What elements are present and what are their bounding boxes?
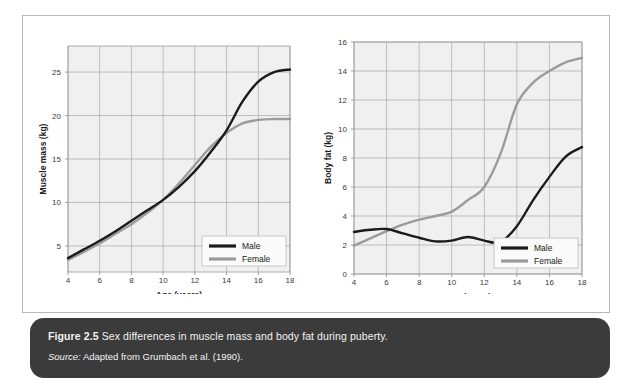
muscle-mass-ytick-label: 5 [57, 242, 62, 251]
caption-description: Sex differences in muscle mass and body … [102, 330, 388, 342]
muscle-mass-xtick-label: 14 [222, 276, 231, 285]
body-fat-x-axis-title: Age (years) [445, 292, 491, 294]
body-fat-ytick-label: 4 [343, 212, 348, 221]
muscle-mass-xtick-label: 10 [159, 276, 168, 285]
body-fat-ytick-label: 2 [343, 241, 348, 250]
body-fat-xtick-label: 18 [578, 278, 587, 287]
body-fat-xtick-label: 14 [512, 278, 521, 287]
body-fat-plot: 46810121416180246810121416Age (years)Bod… [320, 18, 592, 294]
caption-line-source: Source: Adapted from Grumbach et al. (19… [48, 349, 610, 364]
body-fat-legend-label-male: Male [534, 243, 553, 253]
muscle-mass-ytick-label: 25 [52, 68, 61, 77]
body-fat-xtick-label: 10 [447, 278, 456, 287]
body-fat-xtick-label: 12 [480, 278, 489, 287]
body-fat-ytick-label: 6 [343, 183, 348, 192]
caption-source-text: Adapted from Grumbach et al. (1990). [83, 351, 243, 362]
muscle-mass-xtick-label: 18 [286, 276, 294, 285]
body-fat-ytick-label: 16 [338, 38, 347, 47]
body-fat-legend-label-female: Female [534, 256, 563, 266]
muscle-mass-xtick-label: 12 [190, 276, 199, 285]
muscle-mass-legend-label-male: Male [242, 241, 261, 251]
body-fat-xtick-label: 6 [384, 278, 389, 287]
muscle-mass-ytick-label: 10 [52, 198, 61, 207]
caption-source-label: Source: [48, 351, 81, 362]
muscle-mass-y-axis-title: Muscle mass (kg) [38, 123, 48, 194]
muscle-mass-plot: 4681012141618510152025Age (years)Muscle … [36, 22, 294, 294]
body-fat-ytick-label: 14 [338, 67, 347, 76]
body-fat-xtick-label: 8 [417, 278, 422, 287]
body-fat-ytick-label: 8 [343, 154, 348, 163]
muscle-mass-x-axis-title: Age (years) [156, 290, 202, 294]
muscle-mass-xtick-label: 6 [97, 276, 102, 285]
body-fat-xtick-label: 4 [352, 278, 357, 287]
chart-muscle-mass: 4681012141618510152025Age (years)Muscle … [36, 22, 294, 294]
muscle-mass-xtick-label: 4 [66, 276, 71, 285]
body-fat-ytick-label: 0 [343, 270, 348, 279]
muscle-mass-legend-label-female: Female [242, 254, 271, 264]
muscle-mass-ytick-label: 20 [52, 112, 61, 121]
caption-figure-label: Figure 2.5 [48, 330, 99, 342]
caption-line-primary: Figure 2.5 Sex differences in muscle mas… [48, 329, 610, 344]
chart-body-fat: 46810121416180246810121416Age (years)Bod… [320, 18, 592, 294]
body-fat-ytick-label: 10 [338, 125, 347, 134]
body-fat-ytick-label: 12 [338, 96, 347, 105]
body-fat-xtick-label: 16 [545, 278, 554, 287]
muscle-mass-ytick-label: 15 [52, 155, 61, 164]
body-fat-y-axis-title: Body fat (kg) [323, 132, 333, 184]
figure-container: 4681012141618510152025Age (years)Muscle … [0, 0, 632, 391]
muscle-mass-xtick-label: 8 [129, 276, 134, 285]
figure-caption-bar: Figure 2.5 Sex differences in muscle mas… [30, 318, 610, 378]
muscle-mass-xtick-label: 16 [254, 276, 263, 285]
